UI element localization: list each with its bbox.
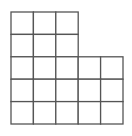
grid-cell [78, 57, 100, 79]
grid-cell [11, 12, 33, 34]
grid-cell [78, 79, 100, 101]
grid-cell [101, 79, 123, 101]
grid-cell [33, 79, 55, 101]
grid-cell [56, 102, 78, 124]
grid-cell [101, 57, 123, 79]
grid-cell [11, 79, 33, 101]
grid-diagram [0, 0, 132, 136]
grid-cell [33, 102, 55, 124]
grid-cell [56, 57, 78, 79]
grid-cell [33, 34, 55, 56]
grid-cell [56, 79, 78, 101]
grid-cell [11, 34, 33, 56]
grid-cell [78, 102, 100, 124]
grid-cell [101, 102, 123, 124]
grid-cell [33, 57, 55, 79]
grid-cell [33, 12, 55, 34]
grid-cell [11, 102, 33, 124]
grid-cell [56, 34, 78, 56]
grid-cell [56, 12, 78, 34]
grid-cell [11, 57, 33, 79]
